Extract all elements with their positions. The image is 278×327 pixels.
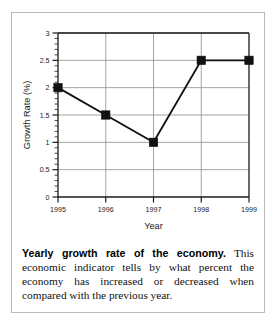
y-tick-label: 3 [46, 30, 50, 38]
y-axis-title: Growth Rate (%) [22, 81, 32, 149]
y-tick-label: 1 [46, 139, 50, 147]
data-point-1999 [245, 56, 253, 64]
y-axis-major-ticks [53, 33, 59, 197]
y-axis-tick-labels: 3 2.5 2 1.5 1 0.5 0 [40, 30, 50, 202]
data-point-1998 [197, 56, 205, 64]
x-axis-tick-labels: 1995 1996 1997 1998 1999 [50, 206, 257, 214]
caption-lead-in: Yearly growth rate of the economy. [22, 247, 226, 259]
x-tick-label: 1998 [193, 206, 209, 214]
x-tick-label: 1995 [50, 206, 66, 214]
figure-caption: Yearly growth rate of the economy. This … [22, 246, 254, 302]
x-tick-label: 1996 [98, 206, 114, 214]
x-tick-label: 1999 [241, 206, 257, 214]
growth-rate-line-chart: 3 2.5 2 1.5 1 0.5 0 1995 1996 1997 1998 … [12, 13, 264, 235]
x-axis-title: Year [144, 221, 163, 231]
y-tick-label: 0.5 [40, 166, 50, 174]
y-tick-label: 1.5 [40, 112, 50, 120]
y-tick-label: 2 [46, 84, 50, 92]
x-tick-label: 1997 [146, 206, 162, 214]
x-axis-ticks [58, 197, 249, 203]
figure-frame: 3 2.5 2 1.5 1 0.5 0 1995 1996 1997 1998 … [11, 12, 265, 313]
data-point-1997 [149, 138, 157, 146]
y-tick-label: 2.5 [40, 57, 50, 65]
y-tick-label: 0 [46, 194, 50, 202]
data-point-1996 [102, 111, 110, 119]
data-point-1995 [54, 83, 62, 91]
chart-area: 3 2.5 2 1.5 1 0.5 0 1995 1996 1997 1998 … [12, 13, 264, 235]
